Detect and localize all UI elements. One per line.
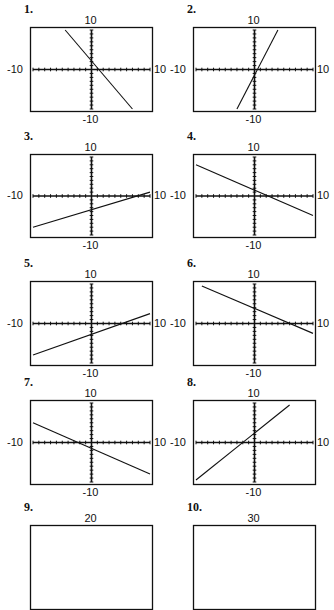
x-min-label: -10	[170, 317, 186, 329]
problem-number: 3.	[24, 129, 33, 144]
x-min-label: -10	[170, 189, 186, 201]
problem-number: 8.	[187, 375, 196, 390]
graph-window	[193, 281, 316, 366]
y-min-label: -10	[246, 113, 262, 125]
x-max-label: 10	[317, 436, 329, 448]
graph-window	[193, 400, 316, 485]
graph-window	[193, 27, 316, 112]
x-max-label: 10	[317, 317, 329, 329]
y-max-label: 10	[248, 14, 260, 26]
x-min-label: -10	[7, 189, 23, 201]
y-min-label: -10	[83, 367, 99, 379]
x-max-label: 10	[154, 317, 166, 329]
x-min-label: -10	[170, 436, 186, 448]
problem-number: 7.	[24, 375, 33, 390]
problem-number: 6.	[187, 256, 196, 271]
graph-line	[202, 286, 313, 333]
x-min-label: -10	[7, 436, 23, 448]
y-min-label: -10	[246, 367, 262, 379]
y-max-label: 10	[85, 268, 97, 280]
x-max-label: 10	[154, 436, 166, 448]
y-max-label: 10	[85, 141, 97, 153]
graph-window	[30, 525, 153, 610]
y-min-label: -10	[83, 113, 99, 125]
problem-number: 4.	[187, 129, 196, 144]
y-min-label: -10	[83, 239, 99, 251]
problem-number: 10.	[187, 500, 202, 515]
y-max-label: 10	[248, 387, 260, 399]
graph-window	[30, 154, 153, 238]
x-max-label: 10	[154, 63, 166, 75]
x-max-label: 10	[154, 189, 166, 201]
y-max-label: 30	[248, 512, 260, 524]
y-min-label: -10	[246, 239, 262, 251]
y-max-label: 10	[248, 268, 260, 280]
y-min-label: -10	[246, 486, 262, 498]
y-min-label: -10	[83, 486, 99, 498]
y-max-label: 20	[85, 512, 97, 524]
x-max-label: 10	[317, 63, 329, 75]
graph-window	[30, 400, 153, 485]
x-min-label: -10	[7, 317, 23, 329]
y-max-label: 10	[85, 387, 97, 399]
graph-window	[193, 154, 316, 238]
graph-window	[30, 281, 153, 366]
x-max-label: 10	[317, 189, 329, 201]
problem-number: 5.	[24, 256, 33, 271]
problem-number: 9.	[24, 500, 33, 515]
x-min-label: -10	[170, 63, 186, 75]
graph-window	[193, 525, 316, 610]
x-min-label: -10	[7, 63, 23, 75]
problem-number: 2.	[187, 2, 196, 17]
y-max-label: 10	[85, 14, 97, 26]
graph-window	[30, 27, 153, 112]
problem-number: 1.	[24, 2, 33, 17]
y-max-label: 10	[248, 141, 260, 153]
